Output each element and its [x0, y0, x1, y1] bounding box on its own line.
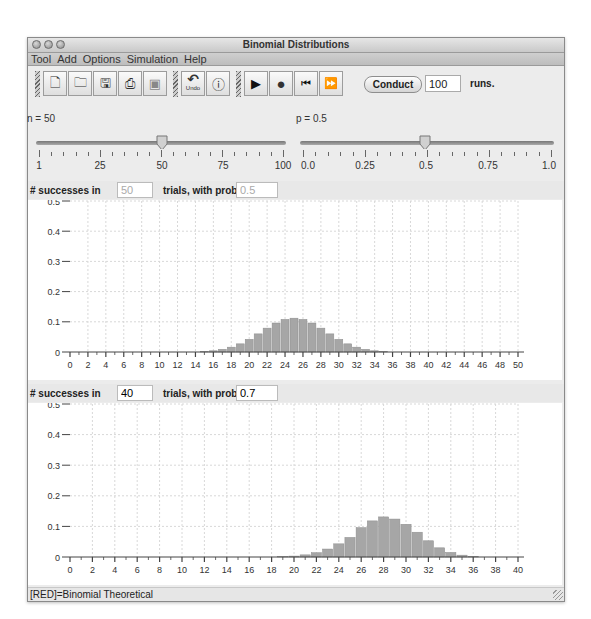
- x-tick-label: 10: [177, 565, 187, 575]
- rewind-button[interactable]: ⏮: [294, 71, 318, 96]
- toolbar-grip-handle[interactable]: [35, 71, 40, 97]
- slider-tick: [88, 152, 89, 156]
- slider-tick: [377, 152, 378, 156]
- x-tick-label: 30: [401, 565, 411, 575]
- slider-tick: [271, 152, 272, 156]
- p-slider-ticks: [303, 150, 551, 158]
- x-tick-label: 18: [267, 565, 277, 575]
- play-button[interactable]: ▶: [244, 71, 268, 96]
- distribution-bar: [356, 528, 366, 557]
- x-tick-label: 2: [85, 360, 90, 370]
- x-tick-label: 4: [103, 360, 108, 370]
- open-button[interactable]: 🗀: [68, 71, 92, 96]
- slider-tick: [489, 150, 490, 157]
- x-tick-label: 32: [423, 565, 433, 575]
- slider-tick: [539, 152, 540, 156]
- x-tick-label: 46: [477, 360, 487, 370]
- conduct-button[interactable]: Conduct: [364, 76, 422, 93]
- x-tick-label: 26: [356, 565, 366, 575]
- x-tick-label: 0: [67, 565, 72, 575]
- y-tick-label: 0.2: [47, 287, 60, 297]
- distribution-bar: [245, 339, 253, 352]
- distribution-bar: [412, 532, 422, 557]
- distribution-bar: [311, 553, 321, 557]
- toolbar-grip-handle[interactable]: [173, 71, 178, 97]
- info-button[interactable]: ⓘ: [206, 71, 230, 96]
- snapshot-button[interactable]: ▣: [143, 71, 167, 96]
- panel1-prob-input[interactable]: [236, 182, 278, 198]
- undo-button[interactable]: ↶ Undo: [181, 71, 205, 96]
- distribution-bar: [290, 318, 298, 352]
- distribution-bar: [379, 517, 389, 557]
- slider-tick: [161, 150, 162, 157]
- slider-tick: [328, 152, 329, 156]
- x-tick-label: 24: [334, 565, 344, 575]
- p-slider-thumb[interactable]: [419, 135, 431, 149]
- stop-button[interactable]: ●: [269, 71, 293, 96]
- y-tick-label: 0: [55, 553, 60, 563]
- y-tick-label: 0.5: [47, 403, 60, 410]
- x-tick-label: 40: [513, 565, 523, 575]
- print-button[interactable]: ⎙: [118, 71, 142, 96]
- distribution-bar: [334, 544, 344, 557]
- panel2-trials-input[interactable]: [117, 385, 153, 401]
- distribution-bar: [263, 328, 271, 352]
- menu-simulation[interactable]: Simulation: [127, 53, 178, 65]
- runs-input[interactable]: 100: [425, 75, 461, 92]
- slider-tick: [100, 150, 101, 157]
- x-tick-label: 40: [423, 360, 433, 370]
- resize-grip-handle[interactable]: [553, 590, 563, 600]
- slider-tick: [526, 152, 527, 156]
- distribution-bar: [446, 552, 456, 557]
- x-tick-label: 28: [379, 565, 389, 575]
- slider-tick: [551, 150, 552, 157]
- slider-tick: [477, 152, 478, 156]
- toolbar-grip-handle[interactable]: [236, 71, 241, 97]
- menu-options[interactable]: Options: [83, 53, 121, 65]
- n-tick-label: 1: [36, 160, 42, 171]
- slider-tick: [210, 152, 211, 156]
- x-tick-label: 18: [226, 360, 236, 370]
- new-button[interactable]: 🗋: [43, 71, 67, 96]
- n-slider-thumb[interactable]: [156, 135, 168, 149]
- undo-label: Undo: [186, 84, 200, 93]
- undo-icon: ↶: [187, 75, 199, 84]
- chart-plot: 00.10.20.30.40.5024681012141618202224262…: [28, 200, 562, 380]
- x-tick-label: 48: [495, 360, 505, 370]
- distribution-bar: [323, 549, 333, 557]
- x-tick-label: 14: [190, 360, 200, 370]
- y-tick-label: 0.2: [47, 491, 60, 501]
- save-button[interactable]: 🖫: [93, 71, 117, 96]
- slider-tick: [303, 150, 304, 157]
- x-tick-label: 50: [513, 360, 523, 370]
- title-bar[interactable]: Binomial Distributions: [28, 38, 564, 53]
- distribution-bar: [236, 344, 244, 352]
- chart-plot: 00.10.20.30.40.5024681012141618202224262…: [28, 403, 562, 585]
- panel2-prob-input[interactable]: [236, 385, 278, 401]
- x-tick-label: 26: [298, 360, 308, 370]
- distribution-bar: [390, 519, 400, 557]
- slider-tick: [439, 152, 440, 156]
- picture-icon: ▣: [149, 76, 161, 91]
- p-tick-label: 0.5: [419, 160, 433, 171]
- x-tick-label: 4: [112, 565, 117, 575]
- x-tick-label: 34: [370, 360, 380, 370]
- menu-help[interactable]: Help: [184, 53, 207, 65]
- x-tick-label: 8: [157, 565, 162, 575]
- distribution-bar: [308, 323, 316, 352]
- slider-tick: [124, 152, 125, 156]
- x-tick-label: 24: [280, 360, 290, 370]
- distribution-bar: [227, 347, 235, 352]
- menu-add[interactable]: Add: [57, 53, 77, 65]
- slider-tick: [464, 152, 465, 156]
- slider-tick: [402, 152, 403, 156]
- menu-tool[interactable]: Tool: [31, 53, 51, 65]
- x-tick-label: 22: [311, 565, 321, 575]
- x-tick-label: 34: [446, 565, 456, 575]
- binomial-chart-1: 00.10.20.30.40.5024681012141618202224262…: [28, 200, 562, 380]
- slider-tick: [173, 152, 174, 156]
- panel1-trials-input[interactable]: [117, 182, 153, 198]
- slider-tick: [452, 152, 453, 156]
- fast-forward-button[interactable]: ⏩: [319, 71, 343, 96]
- x-tick-label: 10: [155, 360, 165, 370]
